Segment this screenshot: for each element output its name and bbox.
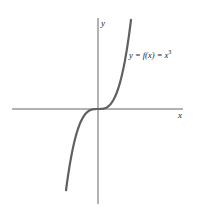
cubic-function-chart: x y y = f(x) = x3 xyxy=(0,0,197,209)
y-axis-label: y xyxy=(100,18,105,28)
curve-equation-label: y = f(x) = x3 xyxy=(128,49,171,60)
cubic-curve xyxy=(66,20,131,190)
x-axis-label: x xyxy=(177,110,182,120)
